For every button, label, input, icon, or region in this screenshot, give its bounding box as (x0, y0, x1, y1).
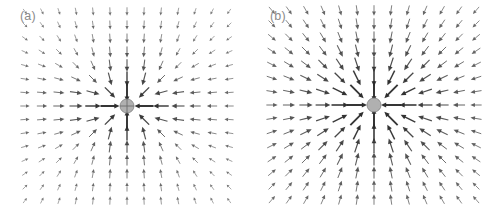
quiver-plot-a (0, 0, 250, 218)
figure-container: (a) (b) (0, 0, 500, 218)
quiver-plot-b (250, 0, 500, 218)
panel-a: (a) (0, 0, 250, 218)
panel-b-label: (b) (270, 10, 286, 23)
panel-a-label: (a) (20, 10, 36, 23)
panel-b: (b) (250, 0, 500, 218)
